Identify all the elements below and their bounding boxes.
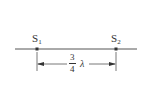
arrowhead-left-icon: [37, 62, 44, 66]
label-s2: S2: [111, 33, 121, 46]
label-s1: S1: [32, 33, 42, 46]
source-s1-dot: [36, 48, 39, 51]
source-s2-dot: [115, 48, 118, 51]
arrowhead-right-icon: [109, 62, 116, 66]
fraction-denominator: 4: [69, 64, 76, 74]
lambda-symbol: λ: [80, 59, 84, 69]
distance-fraction: 3 4: [69, 53, 76, 74]
fraction-numerator: 3: [69, 53, 76, 64]
diagram-canvas: [0, 0, 147, 101]
